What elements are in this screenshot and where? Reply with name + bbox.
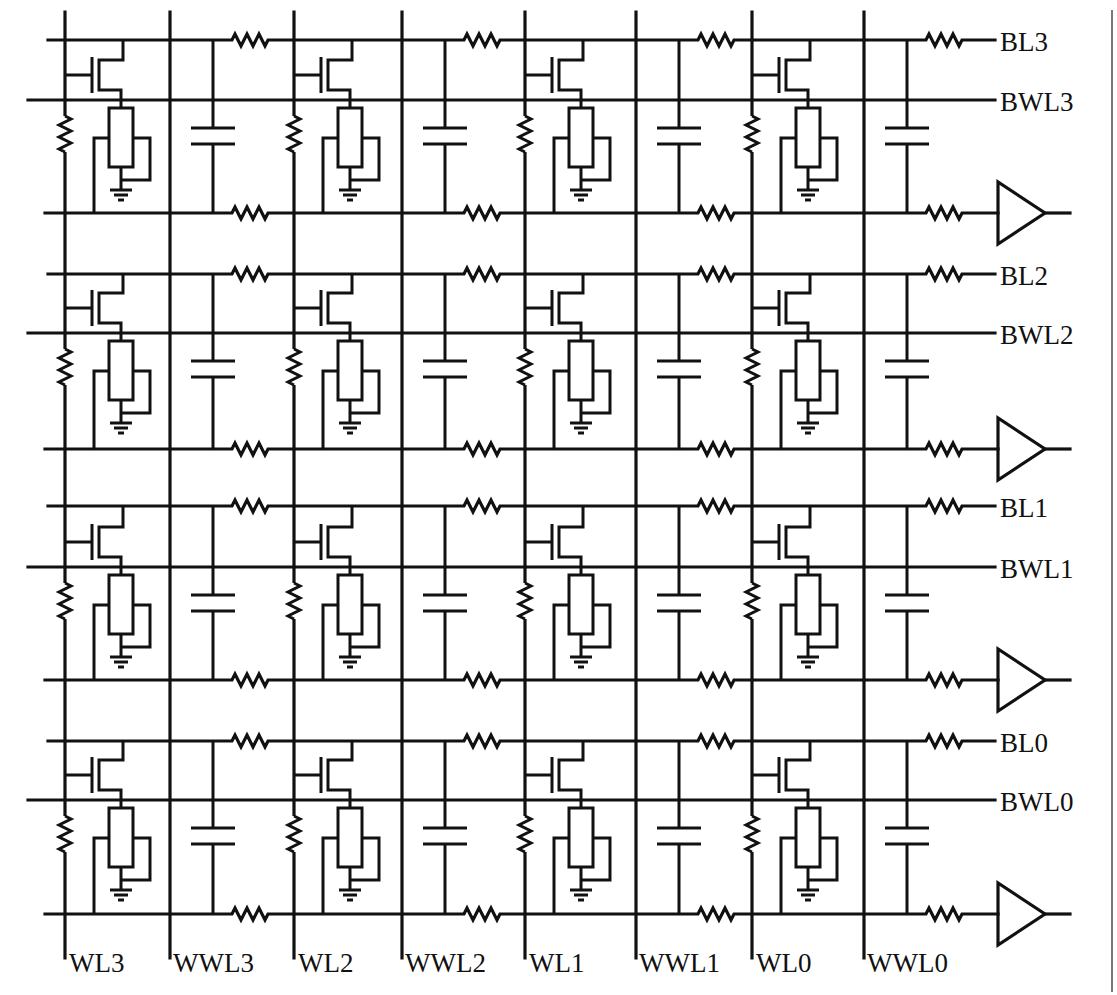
memristor-icon [109,341,133,400]
memristor-left-wire [554,371,569,449]
memristor-loop-wire [350,138,379,180]
memristor-loop-wire [808,838,837,880]
memristor-loop-wire [581,138,610,180]
cell-r1-c1 [286,274,467,449]
transistor-channel [559,274,583,341]
memristor-icon [338,808,362,867]
memristor-icon [796,108,820,167]
col-label-wwl0: WWL0 [867,948,948,978]
row-label-bl0: BL0 [1000,728,1048,758]
cell-r1-c2 [517,274,701,449]
amplifier-icon [998,182,1045,244]
memristor-loop-wire [350,838,379,880]
memristor-left-wire [94,371,109,449]
memristor-icon [338,341,362,400]
memristor-icon [109,108,133,167]
memristor-left-wire [554,838,569,914]
row-label-bl3: BL3 [1000,27,1048,57]
memristor-left-wire [94,138,109,213]
col-label-wwl1: WWL1 [639,948,720,978]
memristor-icon [569,808,593,867]
bitline-row-0 [48,34,995,46]
memristor-icon [338,575,362,634]
memristor-left-wire [94,838,109,914]
memristor-left-wire [323,371,338,449]
cell-r3-c0 [57,741,235,914]
row-label-bl1: BL1 [1000,493,1048,523]
transistor-channel [328,274,352,341]
transistor-channel [99,741,123,808]
memristor-left-wire [554,138,569,213]
memristor-left-wire [554,605,569,680]
memristor-left-wire [781,371,796,449]
wires [28,12,998,958]
transistor-channel [328,506,352,575]
sense-line-row-2 [45,674,998,686]
cell-r3-c3 [744,741,929,914]
transistor-channel [559,40,583,108]
cell-r2-c2 [517,506,701,680]
sense-line-row-3 [45,908,998,920]
transistor-channel [786,274,810,341]
col-label-wwl3: WWL3 [173,948,254,978]
transistor-channel [328,40,352,108]
col-label-wl0: WL0 [756,948,811,978]
sense-line-row-1 [45,443,998,455]
bitline-row-2 [48,500,995,512]
memristor-icon [569,575,593,634]
memristor-icon [796,808,820,867]
col-label-wl2: WL2 [298,948,353,978]
cell-r2-c0 [57,506,235,680]
transistor-channel [99,40,123,108]
memristor-left-wire [323,605,338,680]
memristor-icon [338,108,362,167]
cell-r0-c1 [286,40,467,213]
memristor-loop-wire [808,605,837,647]
row-label-bl2: BL2 [1000,261,1048,291]
memristor-loop-wire [581,838,610,880]
bitline-row-1 [48,268,995,280]
transistor-channel [559,741,583,808]
cell-r1-c0 [57,274,235,449]
memristor-left-wire [323,138,338,213]
memristor-left-wire [94,605,109,680]
col-label-wwl2: WWL2 [405,948,486,978]
memristor-loop-wire [121,138,150,180]
cell-r3-c1 [286,741,467,914]
memristor-loop-wire [121,371,150,413]
transistor-channel [786,741,810,808]
row-label-bwl1: BWL1 [1000,554,1074,584]
right-border-divider [1111,10,1113,992]
col-label-wl1: WL1 [529,948,584,978]
memristor-left-wire [781,138,796,213]
cell-r2-c1 [286,506,467,680]
memory-cells [57,40,929,914]
memristor-loop-wire [121,838,150,880]
transistor-channel [786,40,810,108]
cell-r0-c0 [57,40,235,213]
labels: BL3 BWL3 BL2 BWL2 BL1 BWL1 BL0 BWL0 WL3 … [69,27,1074,978]
cell-r0-c2 [517,40,701,213]
memristor-icon [796,341,820,400]
memristor-left-wire [323,838,338,914]
memristor-loop-wire [808,138,837,180]
bitline-row-3 [48,735,995,747]
crossbar-circuit-diagram: BL3 BWL3 BL2 BWL2 BL1 BWL1 BL0 BWL0 WL3 … [0,0,1117,995]
memristor-icon [109,575,133,634]
memristor-loop-wire [581,371,610,413]
memristor-loop-wire [581,605,610,647]
row-label-bwl3: BWL3 [1000,87,1074,117]
row-label-bwl0: BWL0 [1000,787,1074,817]
transistor-channel [786,506,810,575]
amplifier-icon [998,418,1045,480]
memristor-loop-wire [121,605,150,647]
memristor-icon [569,108,593,167]
col-label-wl3: WL3 [69,948,124,978]
memristor-icon [796,575,820,634]
sense-line-row-0 [45,207,998,219]
cell-r0-c3 [744,40,929,213]
cell-r1-c3 [744,274,929,449]
memristor-left-wire [781,605,796,680]
cell-r2-c3 [744,506,929,680]
transistor-channel [328,741,352,808]
